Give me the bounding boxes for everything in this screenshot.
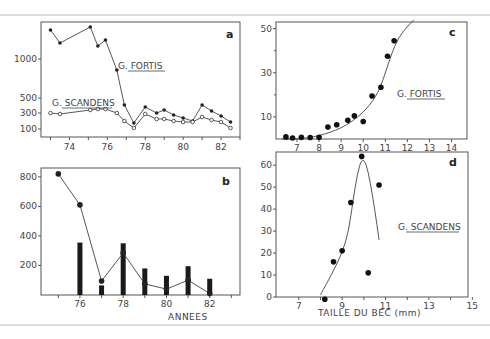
panel-c-fortis-beak-chart: 7891011121314103050 [261,20,467,153]
panel-a-fortis-marker [219,114,223,118]
panel-d-data-point [359,154,365,160]
panel-b-marker [207,291,213,297]
panel-c-data-point [360,119,366,125]
panel-c-data-point [345,118,351,124]
panel-b-marker [120,250,126,256]
panel-b-marker [164,286,170,292]
panel-c-letter: c [449,26,456,39]
panel-a-x-tick-label: 78 [140,142,152,152]
panel-c-y-tick-label: 50 [261,24,273,34]
panel-a-fortis-marker [210,109,214,113]
panel-a-fortis-marker [96,44,100,48]
panel-a-scandens-marker [88,108,92,112]
panel-a-x-tick-label: 76 [102,142,114,152]
panel-d-letter: d [449,156,457,169]
panel-b-x-tick-label: 76 [74,299,86,309]
panel-a-y-tick-label: 300 [20,108,37,118]
panel-a-scandens-marker [115,111,119,115]
panel-b-bar [99,285,104,295]
panel-a-fortis-marker [88,25,92,29]
figure-canvas: 74767880821000500300100 7678808220040060… [0,0,490,339]
panel-a-y-tick-label: 500 [20,93,37,103]
panel-a-x-tick-label: 74 [64,142,76,152]
panel-a-fortis-marker [104,38,108,42]
panel-a-fortis-marker [132,121,136,125]
panel-c-data-point [290,135,296,141]
panel-c-data-point [299,135,305,141]
panel-a-fortis-marker [181,116,185,120]
panel-a-population-chart: 74767880821000500300100 [14,22,240,152]
panel-a-fortis-marker [200,103,204,107]
panel-a-scandens-marker [229,126,233,130]
panel-b-x-tick-label: 78 [117,299,129,309]
panel-a-scandens-marker [143,112,147,116]
panel-c-data-point [378,84,384,90]
x-axis-title-annees: ANNEES [168,312,208,322]
panel-b-plot-frame [41,168,240,295]
panel-a-scandens-marker [58,112,62,116]
panel-b-y-tick-label: 400 [20,231,37,241]
panel-a-scandens-marker [162,117,166,121]
panel-d-data-point [348,200,354,206]
panel-a-letter: a [226,28,233,41]
panel-a-fortis-marker [49,28,53,32]
panel-d-data-point [322,296,328,302]
panel-a-fortis-marker [155,111,159,115]
panel-a-scandens-marker [49,111,53,115]
panel-d-y-tick-label: 20 [261,248,273,258]
panel-c-data-point [385,54,391,60]
panel-a-fortis-marker [123,103,127,107]
panel-a-scandens-marker [123,119,127,123]
panel-a-scandens-marker [172,119,176,123]
panel-d-x-tick-label: 7 [296,301,302,311]
panel-d-y-tick-label: 40 [261,204,273,214]
panel-a-y-tick-label: 100 [20,124,37,134]
panel-b-marker [77,202,83,208]
panel-d-data-point [339,248,345,254]
panel-d-data-point [365,270,371,276]
panel-c-y-tick-label: 10 [261,112,273,122]
panel-a-scandens-marker [181,120,185,124]
panel-b-y-tick-label: 600 [20,201,37,211]
panel-b-marker [185,277,191,283]
panel-b-letter: b [222,175,230,188]
panel-d-data-point [331,259,337,265]
species-label-d: G. SCANDENS [398,222,461,232]
panel-a-fortis-marker [58,41,62,45]
panel-d-x-tick-label: 15 [467,301,478,311]
panel-c-data-point [316,135,322,141]
panel-d-y-tick-label: 0 [266,292,272,302]
panel-a-fortis-marker [162,108,166,112]
legend-g-scandens-a: G. SCANDENS [52,98,115,108]
panel-d-y-tick-label: 30 [261,226,273,236]
panel-b-bar [164,276,169,295]
panel-b-marker [142,281,148,287]
panel-b-y-tick-label: 200 [20,260,37,270]
panel-d-y-tick-label: 60 [261,160,273,170]
panel-a-fortis-marker [143,105,147,109]
panel-c-y-tick-label: 30 [261,68,273,78]
panel-c-data-point [334,122,340,128]
panel-a-scandens-marker [132,126,136,130]
panel-d-x-tick-label: 13 [423,301,434,311]
panel-d-y-tick-label: 10 [261,270,273,280]
panel-a-scandens-marker [191,120,195,124]
species-label-c: G. FORTIS [397,89,442,99]
panel-b-x-tick-label: 82 [204,299,215,309]
panel-c-data-point [369,93,375,99]
panel-c-data-point [283,134,289,140]
panel-c-plot-frame [276,22,467,139]
panel-c-data-point [391,38,397,44]
panel-a-y-tick-label: 1000 [14,54,37,64]
panel-c-data-point [352,113,358,119]
panel-b-bar [77,243,82,295]
panel-a-scandens-marker [210,118,214,122]
panel-a-x-tick-label: 80 [177,142,189,152]
panel-d-data-point [376,182,382,188]
panel-a-fortis-marker [229,120,233,124]
panel-b-x-tick-label: 80 [161,299,173,309]
panel-d-y-tick-label: 50 [261,182,273,192]
panel-c-data-point [325,124,331,130]
panel-a-scandens-marker [155,117,159,121]
panel-c-data-point [307,135,313,141]
